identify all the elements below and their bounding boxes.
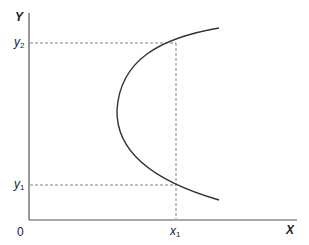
y1-sub: 1 [20,183,24,192]
diagram-canvas [0,0,309,245]
x1-sub: 1 [176,230,180,239]
y-axis-label: Y [15,11,23,23]
y2-sub: 2 [20,41,24,50]
y2-tick-label: y2 [14,36,24,50]
origin-label: 0 [17,226,24,238]
parabola-curve [117,28,219,200]
x1-tick-label: x1 [170,225,180,239]
y1-tick-label: y1 [14,178,24,192]
x-axis-label: X [286,224,294,236]
